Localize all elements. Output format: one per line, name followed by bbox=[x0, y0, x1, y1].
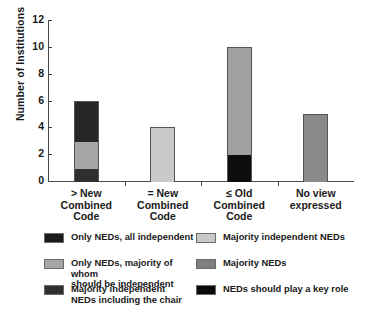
x-tick-label-line: > New bbox=[42, 188, 130, 200]
y-tick-label: 12 bbox=[14, 14, 44, 25]
legend-swatch bbox=[196, 259, 216, 269]
y-axis-line bbox=[48, 20, 49, 182]
chart-legend: Only NEDs, all independentOnly NEDs, maj… bbox=[0, 232, 365, 324]
bar-segment bbox=[151, 128, 174, 182]
y-tick-label: 10 bbox=[14, 41, 44, 52]
legend-label-line: Majority independent bbox=[71, 284, 182, 295]
stacked-bar-chart: Number of Institutions 024681012 > NewCo… bbox=[0, 0, 365, 324]
legend-swatch bbox=[44, 233, 64, 243]
legend-item: NEDs should play a key role bbox=[196, 284, 349, 295]
legend-label: NEDs should play a key role bbox=[223, 284, 349, 295]
x-tick-label-line: Code bbox=[119, 211, 207, 223]
legend-swatch bbox=[196, 285, 216, 295]
bar-segment bbox=[228, 155, 251, 182]
x-tick-label-line: No view bbox=[272, 188, 360, 200]
y-tick-label: 0 bbox=[14, 175, 44, 186]
legend-label-line: NEDs should play a key role bbox=[223, 284, 349, 295]
bar bbox=[74, 101, 99, 182]
y-tick-label: 4 bbox=[14, 121, 44, 132]
x-tick-label: No viewexpressed bbox=[272, 188, 360, 211]
legend-label-line: NEDs including the chair bbox=[71, 295, 182, 306]
plot-area: Number of Institutions 024681012 > NewCo… bbox=[0, 0, 365, 228]
y-axis-tick-labels: 024681012 bbox=[14, 0, 44, 228]
x-tick-mark bbox=[278, 182, 279, 186]
legend-label-line: Majority NEDs bbox=[223, 258, 287, 269]
bar bbox=[150, 127, 175, 181]
legend-swatch bbox=[44, 259, 64, 269]
x-tick-label: = NewCombinedCode bbox=[119, 188, 207, 223]
legend-label-line: Majority independent NEDs bbox=[223, 232, 345, 243]
legend-item: Only NEDs, all independent bbox=[44, 232, 193, 243]
y-tick-label: 2 bbox=[14, 148, 44, 159]
x-tick-label: ≤ OldCombinedCode bbox=[195, 188, 283, 223]
bar bbox=[227, 47, 252, 181]
x-tick-label-line: Code bbox=[195, 211, 283, 223]
legend-item: Majority NEDs bbox=[196, 258, 287, 269]
x-tick-label-line: ≤ Old bbox=[195, 188, 283, 200]
bar-segment bbox=[228, 48, 251, 155]
legend-swatch bbox=[196, 233, 216, 243]
legend-swatch bbox=[44, 285, 64, 295]
legend-label-line: Only NEDs, majority of whom bbox=[71, 258, 194, 279]
x-tick-label-line: Code bbox=[42, 211, 130, 223]
legend-label: Only NEDs, all independent bbox=[71, 232, 193, 243]
x-tick-label-line: = New bbox=[119, 188, 207, 200]
y-tick-label: 8 bbox=[14, 68, 44, 79]
y-tick-label: 6 bbox=[14, 95, 44, 106]
x-tick-label-line: expressed bbox=[272, 200, 360, 212]
x-tick-label: > NewCombinedCode bbox=[42, 188, 130, 223]
bar-segment bbox=[75, 102, 98, 142]
bar bbox=[303, 114, 328, 181]
bar-segment bbox=[75, 169, 98, 182]
legend-label: Majority independentNEDs including the c… bbox=[71, 284, 182, 305]
x-tick-mark bbox=[125, 182, 126, 186]
bar-segment bbox=[304, 115, 327, 182]
legend-label: Majority independent NEDs bbox=[223, 232, 345, 243]
legend-label: Majority NEDs bbox=[223, 258, 287, 269]
legend-label-line: Only NEDs, all independent bbox=[71, 232, 193, 243]
legend-item: Majority independentNEDs including the c… bbox=[44, 284, 182, 305]
legend-item: Majority independent NEDs bbox=[196, 232, 345, 243]
bar-segment bbox=[75, 142, 98, 169]
x-tick-mark bbox=[201, 182, 202, 186]
